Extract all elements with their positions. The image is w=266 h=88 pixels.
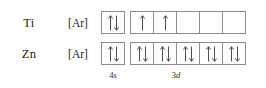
orbital-box-empty xyxy=(199,11,223,34)
spin-down-arrow-icon xyxy=(212,46,217,62)
orbital-box-empty xyxy=(176,11,200,34)
spin-up-arrow-icon xyxy=(108,15,113,31)
orbital-box xyxy=(153,42,177,65)
orbital-boxes-3d-ti xyxy=(130,11,246,34)
subshell-letter: d xyxy=(176,70,180,80)
spin-up-arrow-icon xyxy=(160,46,165,62)
spin-down-arrow-icon xyxy=(235,46,240,62)
element-row-zn: Zn [Ar] xyxy=(0,42,266,66)
electron-single-up xyxy=(154,12,176,33)
spin-up-arrow-icon xyxy=(137,46,142,62)
spin-down-arrow-icon xyxy=(114,46,119,62)
electron-pair-updown xyxy=(223,43,245,64)
spin-down-arrow-icon xyxy=(166,46,171,62)
orbital-box xyxy=(199,42,223,65)
orbital-box xyxy=(101,42,125,65)
spin-up-arrow-icon xyxy=(206,46,211,62)
orbital-box xyxy=(130,42,154,65)
spin-down-arrow-icon xyxy=(189,46,194,62)
orbital-box xyxy=(222,42,246,65)
spin-up-arrow-icon xyxy=(140,15,145,31)
orbital-box xyxy=(153,11,177,34)
spin-down-arrow-icon xyxy=(143,46,148,62)
electron-pair-updown xyxy=(154,43,176,64)
electron-single-up xyxy=(131,12,153,33)
element-symbol-zn: Zn xyxy=(0,42,58,66)
element-symbol-ti: Ti xyxy=(0,11,58,35)
element-row-ti: Ti [Ar] xyxy=(0,11,266,35)
spin-up-arrow-icon xyxy=(183,46,188,62)
orbital-boxes-3d-zn xyxy=(130,42,246,65)
subshell-caption-3d: 3d xyxy=(146,70,206,80)
electron-pair-updown xyxy=(177,43,199,64)
electron-pair-updown xyxy=(200,43,222,64)
electron-pair-updown xyxy=(102,12,124,33)
orbital-boxes-4s-ti xyxy=(101,11,125,34)
orbital-diagram: Ti [Ar] xyxy=(0,0,266,88)
electron-pair-updown xyxy=(102,43,124,64)
orbital-box xyxy=(176,42,200,65)
noble-gas-core-ti: [Ar] xyxy=(58,11,98,35)
orbital-box-empty xyxy=(222,11,246,34)
noble-gas-core-zn: [Ar] xyxy=(58,42,98,66)
spin-up-arrow-icon xyxy=(163,15,168,31)
spin-down-arrow-icon xyxy=(114,15,119,31)
subshell-letter: s xyxy=(113,70,116,80)
electron-pair-updown xyxy=(131,43,153,64)
spin-up-arrow-icon xyxy=(229,46,234,62)
orbital-box xyxy=(101,11,125,34)
spin-up-arrow-icon xyxy=(108,46,113,62)
orbital-boxes-4s-zn xyxy=(101,42,125,65)
orbital-box xyxy=(130,11,154,34)
subshell-caption-4s: 4s xyxy=(89,70,137,80)
